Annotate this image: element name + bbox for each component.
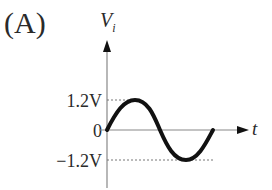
waveform-plot [0, 0, 272, 190]
y-axis-arrow-icon [103, 40, 111, 52]
x-axis-arrow-icon [237, 126, 249, 134]
